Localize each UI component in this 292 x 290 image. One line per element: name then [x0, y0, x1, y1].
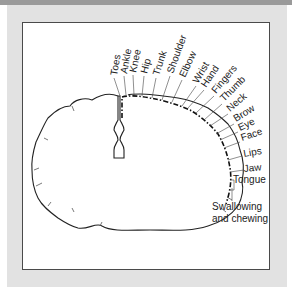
- label-tongue: Tongue: [233, 174, 266, 185]
- homunculus-diagram: Toes Ankle Knee Hip Trunk Shoulder Elbow…: [0, 0, 292, 290]
- label-swallowing-2: and chewing: [212, 213, 268, 224]
- label-swallowing-1: Swallowing: [212, 201, 262, 212]
- label-jaw: Jaw: [243, 161, 262, 174]
- sulci-marks: [34, 106, 232, 226]
- body-part-labels: Toes Ankle Knee Hip Trunk Shoulder Elbow…: [108, 33, 268, 224]
- label-lips: Lips: [242, 145, 262, 159]
